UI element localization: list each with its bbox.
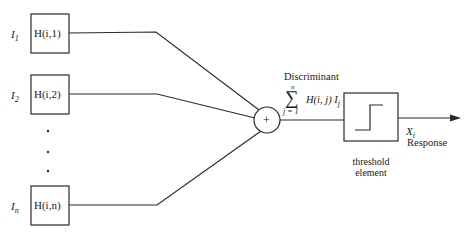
filter-label-1: H(i,1): [34, 28, 61, 39]
diagram-canvas: [0, 0, 467, 237]
input-label-2: I2: [11, 90, 19, 101]
discriminant-expression: H(i, j) Ij: [306, 95, 340, 106]
filter-label-n: H(i,n): [34, 200, 61, 211]
response-label: Response: [407, 138, 447, 149]
connector-1: [69, 32, 259, 110]
threshold-box: [344, 93, 398, 141]
plus-symbol: +: [263, 114, 270, 126]
sum-lower-limit: j = 1: [283, 108, 299, 116]
input-label-n: In: [11, 201, 19, 212]
sigma-symbol: ∑: [285, 88, 299, 107]
threshold-label: threshold element: [351, 156, 391, 178]
discriminant-title: Discriminant: [284, 72, 339, 83]
connector-n: [69, 131, 261, 205]
connector-2: [69, 94, 255, 118]
arrowhead-icon: [450, 115, 461, 122]
input-label-1: I1: [11, 29, 19, 40]
ellipsis-dots: [47, 130, 49, 172]
output-symbol: Xi: [406, 126, 415, 137]
filter-label-2: H(i,2): [34, 89, 61, 100]
